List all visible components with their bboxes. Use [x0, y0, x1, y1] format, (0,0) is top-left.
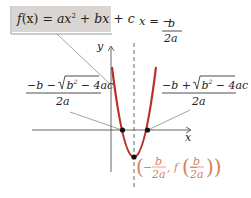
left-root-leader: [70, 112, 122, 130]
function-equation: f(x) = ax2 + bx + c: [17, 11, 135, 26]
left-root-point: [120, 127, 125, 132]
terms-rest: + bx + c: [76, 11, 135, 26]
right-root-prefix: −b +: [162, 79, 194, 92]
symmetry-denominator: 2a: [164, 32, 178, 45]
vertex-x-numerator: b: [155, 155, 162, 168]
left-root-numerator: −b − b2 − 4ac: [27, 78, 113, 92]
y-axis-label: y: [97, 40, 103, 53]
vertex-minus: −: [143, 161, 152, 174]
left-root-radicand-rest: − 4ac: [77, 79, 113, 92]
axes: [32, 46, 191, 172]
right-root-leader: [148, 110, 190, 130]
term-ax: ax: [57, 11, 72, 26]
left-root-radicand: b: [66, 79, 73, 92]
symmetry-numerator: b: [168, 17, 175, 30]
right-root-numerator: −b + b2 − 4ac: [162, 78, 248, 92]
right-root-point: [145, 127, 150, 132]
left-root-denominator: 2a: [56, 95, 70, 108]
vertex-close: )): [206, 157, 222, 177]
x-axis-label: x: [185, 131, 191, 144]
right-root-denominator: 2a: [192, 95, 206, 108]
equals-sign: =: [38, 11, 56, 26]
right-root-radicand: b: [201, 79, 208, 92]
vertex-y-denominator: 2a: [190, 168, 204, 181]
vertex-f: , f: [167, 161, 178, 174]
vertex-y-numerator: b: [193, 155, 200, 168]
vertex-x-denominator: 2a: [152, 168, 166, 181]
function-arg: (x): [22, 11, 39, 26]
left-root-prefix: −b −: [27, 79, 59, 92]
parabola-diagram: f(x) = ax2 + bx + c y x x = − b 2a −b − …: [0, 0, 251, 198]
right-root-radicand-rest: − 4ac: [212, 79, 248, 92]
